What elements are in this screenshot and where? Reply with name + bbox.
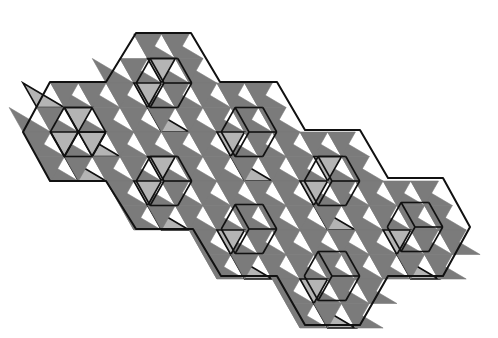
tiling-svg xyxy=(0,0,498,338)
tiling-figure xyxy=(0,0,498,338)
